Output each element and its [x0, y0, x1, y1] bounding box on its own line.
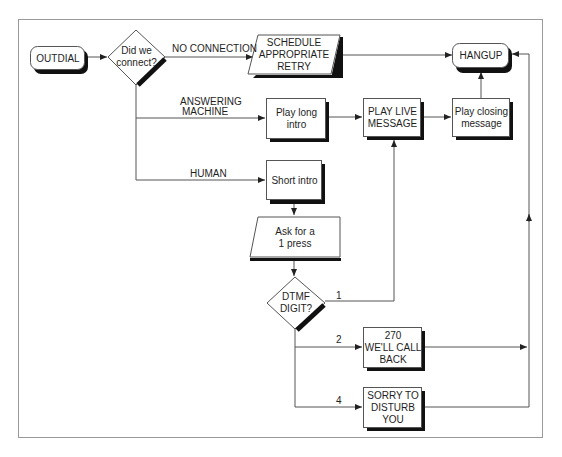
- play-long-intro-line1: Play long: [276, 107, 317, 119]
- edge-label-digit-4: 4: [336, 395, 342, 407]
- ask-line2: 1 press: [279, 238, 312, 250]
- dtmf-line2: DIGIT?: [280, 303, 312, 315]
- schedule-retry-label: SCHEDULE APPROPRIATE RETRY: [252, 36, 336, 74]
- play-closing-line1: Play closing: [455, 106, 508, 118]
- sorry-line3: YOU: [382, 414, 404, 426]
- edge-label-digit-2: 2: [336, 334, 342, 346]
- play-live-line1: PLAY LIVE: [368, 106, 417, 118]
- schedule-line2: APPROPRIATE: [259, 49, 329, 61]
- schedule-line3: RETRY: [277, 61, 311, 73]
- schedule-line1: SCHEDULE: [267, 37, 321, 49]
- dtmf-digit-label: DTMF DIGIT?: [267, 290, 325, 316]
- edge-label-human: HUMAN: [190, 168, 227, 180]
- play-live-line2: MESSAGE: [368, 118, 417, 130]
- did-we-connect-label: Did we connect?: [108, 44, 165, 70]
- callback-line1: 270: [385, 330, 402, 342]
- hangup-label: HANGUP: [453, 44, 509, 68]
- edge-label-machine: MACHINE: [180, 106, 230, 118]
- play-long-intro-label: Play long intro: [267, 99, 326, 139]
- callback-line2: WE'LL CALL: [365, 342, 422, 354]
- ask-line1: Ask for a: [275, 226, 314, 238]
- play-closing-line2: message: [461, 118, 502, 130]
- edge-label-no-connection: NO CONNECTION: [172, 43, 257, 55]
- play-live-message-label: PLAY LIVE MESSAGE: [364, 99, 421, 137]
- well-call-back-label: 270 WE'LL CALL BACK: [364, 328, 422, 368]
- sorry-to-disturb-label: SORRY TO DISTURB YOU: [364, 388, 422, 428]
- sorry-line1: SORRY TO: [367, 390, 419, 402]
- play-closing-message-label: Play closing message: [453, 99, 510, 137]
- did-we-connect-line1: Did we: [121, 45, 152, 57]
- dtmf-line1: DTMF: [282, 291, 310, 303]
- short-intro-label: Short intro: [267, 161, 322, 200]
- play-long-intro-line2: intro: [287, 119, 306, 131]
- did-we-connect-line2: connect?: [116, 57, 157, 69]
- edge-label-digit-1: 1: [336, 290, 342, 302]
- sorry-line2: DISTURB: [371, 402, 415, 414]
- outdial-label: OUTDIAL: [31, 47, 85, 70]
- ask-for-1-press-label: Ask for a 1 press: [252, 218, 338, 257]
- callback-line3: BACK: [379, 354, 406, 366]
